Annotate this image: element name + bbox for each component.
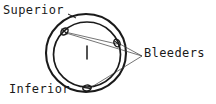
leader-line-icon (66, 33, 142, 56)
bleeder-port-mark-icon (113, 38, 122, 48)
figure-canvas: Superior Inferior Bleeders (0, 0, 216, 104)
label-bleeders: Bleeders (144, 47, 205, 59)
outer-circle-icon (46, 14, 126, 92)
leader-line-icon (90, 56, 142, 88)
label-superior: Superior (3, 4, 64, 16)
label-inferior: Inferior (9, 83, 70, 95)
bleeder-port-mark-icon (82, 85, 91, 92)
chord-line-icon (65, 32, 117, 44)
